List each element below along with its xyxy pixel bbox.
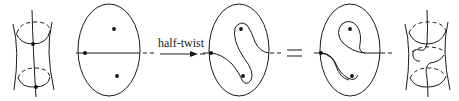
marked-point xyxy=(112,27,116,31)
right-cylinder xyxy=(405,10,450,97)
half-twist-arrow: half-twist xyxy=(158,36,205,57)
half-twist-diagram: half-twist xyxy=(0,0,459,101)
marked-point xyxy=(348,27,352,31)
disk-3 xyxy=(314,4,393,96)
left-cylinder xyxy=(13,10,54,97)
marked-point xyxy=(239,27,243,31)
marked-point xyxy=(241,74,245,78)
arrow-label: half-twist xyxy=(158,36,205,50)
marked-point xyxy=(115,74,119,78)
marked-point xyxy=(31,42,35,46)
boundary-point xyxy=(83,51,87,55)
equals-sign xyxy=(287,50,302,56)
boundary-point xyxy=(209,51,213,55)
disk-1 xyxy=(76,4,156,96)
marked-point xyxy=(34,85,38,89)
boundary-point xyxy=(319,51,323,55)
marked-point xyxy=(350,74,354,78)
disk-2 xyxy=(203,4,282,96)
